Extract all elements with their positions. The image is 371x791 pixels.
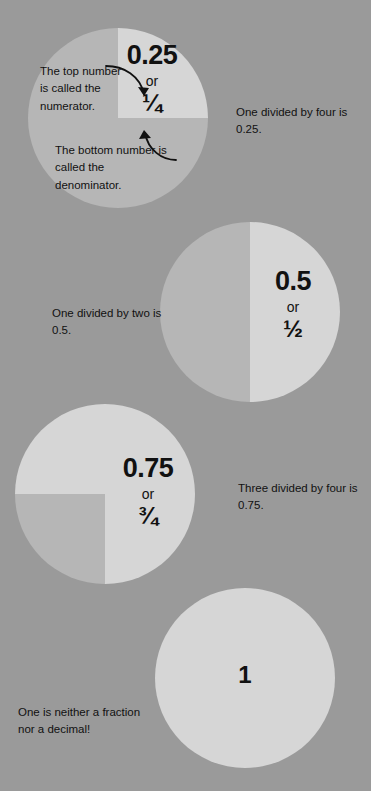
annotation-numerator: The top number is called the numerator.: [40, 63, 126, 115]
value-stack-one-whole: 1: [205, 663, 285, 687]
pie-slice-bottom-left: [160, 312, 250, 402]
fraction-value-three-quarters: ¾: [100, 504, 196, 528]
caption-one-whole: One is neither a fraction nor a decimal!: [18, 704, 158, 737]
pie-slice-top-left: [15, 404, 105, 494]
infographic-canvas: 0.25 or ¼ The top number is called the n…: [0, 0, 371, 791]
pie-slice-bottom-left: [155, 678, 245, 768]
or-connector-one-half: or: [245, 300, 341, 314]
or-connector-three-quarters: or: [100, 487, 196, 501]
annotation-denominator: The bottom number is called the denomina…: [55, 142, 167, 194]
decimal-value-one-half: 0.5: [245, 268, 341, 295]
decimal-value-one-whole: 1: [205, 663, 285, 687]
caption-one-half: One divided by two is 0.5.: [52, 305, 172, 338]
fraction-value-one-half: ½: [245, 317, 341, 341]
caption-one-quarter: One divided by four is 0.25.: [236, 104, 356, 137]
pie-slice-top-left: [160, 222, 250, 312]
caption-three-quarters: Three divided by four is 0.75.: [238, 480, 360, 513]
value-stack-one-half: 0.5 or ½: [245, 268, 341, 341]
pie-slice-bottom-left: [15, 494, 105, 584]
decimal-value-three-quarters: 0.75: [100, 455, 196, 482]
pie-slice-bottom-right: [245, 678, 335, 768]
value-stack-three-quarters: 0.75 or ¾: [100, 455, 196, 528]
